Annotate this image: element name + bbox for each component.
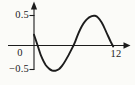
x-tick-label-12: 12 [108, 48, 124, 59]
y-tick-label-neg-0-5: −0.5 [1, 63, 29, 74]
y-axis-arrowhead-icon [31, 2, 37, 10]
x-axis-arrowhead-icon [124, 42, 131, 48]
origin-label: 0 [15, 47, 25, 58]
sinusoid-plot-figure: 0.5 0 −0.5 12 [0, 0, 135, 85]
y-tick-label-0-5: 0.5 [8, 9, 29, 20]
sinusoid-curve [34, 16, 113, 71]
